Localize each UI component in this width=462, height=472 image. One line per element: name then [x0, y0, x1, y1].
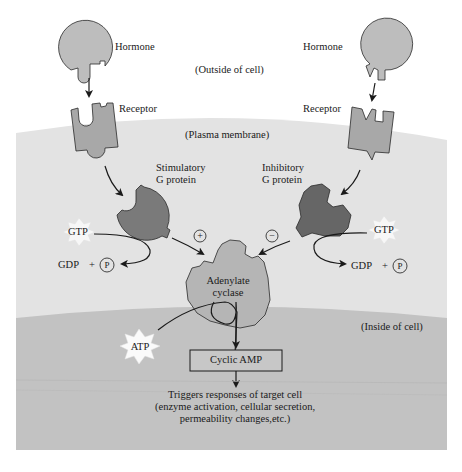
stimulatory-g-protein-label-line1: Stimulatory: [156, 162, 206, 174]
stimulation-sign-label: +: [194, 230, 206, 242]
atp-label: ATP: [126, 341, 154, 353]
right-plus-label: +: [382, 260, 388, 272]
left-receptor-label: Receptor: [119, 103, 157, 115]
left-gdp-label: GDP: [58, 259, 79, 271]
response-label-line2: (enzyme activation, cellular secretion,: [130, 401, 340, 413]
response-label-line3: permeability changes,etc.): [130, 413, 340, 425]
cyclic-amp-label: Cyclic AMP: [190, 354, 282, 366]
right-gdp-label: GDP: [351, 260, 372, 272]
left-plus-label: +: [89, 259, 95, 271]
stimulatory-g-protein-label-line2: G protein: [156, 174, 196, 186]
left-hormone-label: Hormone: [115, 41, 155, 53]
adenylate-cyclase-label-line1: Adenylate: [198, 275, 258, 287]
right-hormone-label: Hormone: [303, 41, 343, 53]
left-phosphate-label: P: [102, 259, 112, 271]
inhibitory-g-protein-label-line2: G protein: [262, 174, 302, 186]
inhibitory-g-protein-label-line1: Inhibitory: [262, 162, 304, 174]
left-gtp-label: GTP: [68, 226, 88, 238]
right-hormone-arrow: [372, 83, 375, 100]
right-hormone-shape: [361, 18, 413, 80]
left-hormone-shape: [59, 20, 113, 83]
adenylate-cyclase-label-line2: cyclase: [198, 287, 258, 299]
right-receptor-label: Receptor: [303, 103, 341, 115]
response-label-line1: Triggers responses of target cell: [130, 389, 340, 401]
plasma-membrane-label: (Plasma membrane): [185, 129, 269, 141]
outside-of-cell-label: (Outside of cell): [195, 64, 264, 76]
right-phosphate-label: P: [395, 260, 405, 272]
inside-of-cell-label: (Inside of cell): [361, 321, 423, 333]
inhibition-sign-label: −: [266, 230, 278, 242]
right-gtp-label: GTP: [374, 224, 394, 236]
